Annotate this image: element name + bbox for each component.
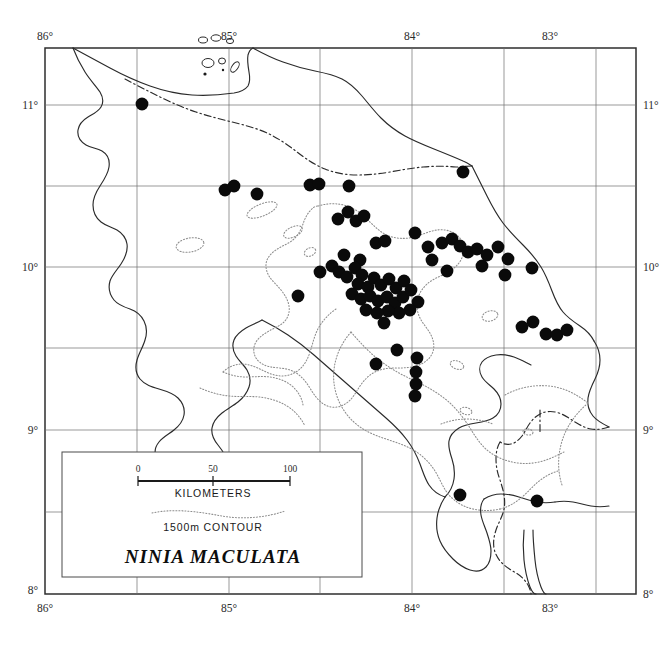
locality-dot	[426, 254, 439, 267]
scale-tick-label-0: 0	[136, 464, 141, 474]
axis-label-lat-left-1: 10°	[22, 261, 39, 273]
locality-dot	[338, 249, 351, 262]
axis-label-lat-left-2: 9°	[28, 424, 39, 436]
locality-dot	[502, 253, 515, 266]
locality-dot	[410, 378, 423, 391]
locality-dot	[382, 305, 395, 318]
locality-dot	[405, 284, 418, 297]
locality-dot	[370, 358, 383, 371]
locality-dot	[251, 188, 264, 201]
locality-dot	[228, 180, 241, 193]
axis-labels-top: 86° 85° 84° 83°	[37, 30, 559, 42]
locality-dot	[404, 304, 417, 317]
species-title: NINIA MACULATA	[124, 546, 301, 567]
axis-label-lat-right-0: 11°	[643, 99, 659, 111]
axis-label-lon-bottom-1: 85°	[221, 602, 238, 614]
locality-dot	[343, 180, 356, 193]
axis-label-lon-bottom-3: 83°	[542, 602, 559, 614]
axis-label-lon-bottom-0: 86°	[37, 602, 54, 614]
axis-label-lon-top-2: 84°	[404, 30, 421, 42]
locality-dot	[441, 265, 454, 278]
legend-panel: 0 50 100 KILOMETERS 1500m CONTOUR NINIA …	[62, 452, 362, 577]
locality-dot	[360, 304, 373, 317]
locality-dot	[499, 269, 512, 282]
axis-label-lat-right-3: 8°	[643, 588, 654, 600]
locality-dot	[409, 390, 422, 403]
locality-dot	[454, 489, 467, 502]
locality-dot	[540, 328, 553, 341]
locality-dot	[378, 317, 391, 330]
locality-dot	[531, 495, 544, 508]
axis-label-lon-top-3: 83°	[542, 30, 559, 42]
locality-dot	[136, 98, 149, 111]
axis-labels-bottom: 86° 85° 84° 83°	[37, 602, 559, 614]
locality-dot-layer	[136, 98, 574, 508]
locality-dot	[391, 344, 404, 357]
locality-dot	[313, 178, 326, 191]
axis-label-lat-right-2: 9°	[643, 424, 654, 436]
axis-labels-left: 11° 10° 9° 8°	[22, 99, 39, 596]
locality-dot	[561, 324, 574, 337]
locality-dot	[411, 352, 424, 365]
axis-label-lat-left-0: 11°	[22, 99, 38, 111]
axis-label-lat-left-3: 8°	[28, 584, 39, 596]
map-canvas: 86° 85° 84° 83° 86° 85° 84° 83° 11° 10° …	[0, 0, 667, 651]
axis-label-lat-right-1: 10°	[643, 261, 660, 273]
locality-dot	[481, 249, 494, 262]
locality-dot	[314, 266, 327, 279]
locality-dot	[457, 166, 470, 179]
locality-dot	[476, 260, 489, 273]
map-figure: 86° 85° 84° 83° 86° 85° 84° 83° 11° 10° …	[0, 0, 667, 651]
locality-dot	[409, 227, 422, 240]
scale-tick-label-2: 100	[283, 464, 298, 474]
locality-dot	[526, 262, 539, 275]
locality-dot	[422, 241, 435, 254]
axis-label-lon-top-1: 85°	[221, 30, 238, 42]
locality-dot	[492, 241, 505, 254]
axis-labels-right: 11° 10° 9° 8°	[643, 99, 660, 600]
axis-label-lon-bottom-2: 84°	[404, 602, 421, 614]
locality-dot	[393, 307, 406, 320]
distribution-map-page: 86° 85° 84° 83° 86° 85° 84° 83° 11° 10° …	[0, 0, 667, 651]
locality-dot	[516, 321, 529, 334]
scale-tick-label-1: 50	[208, 464, 218, 474]
locality-dot	[527, 316, 540, 329]
axis-label-lon-top-0: 86°	[37, 30, 54, 42]
locality-dot	[410, 366, 423, 379]
scale-unit-label: KILOMETERS	[175, 487, 252, 499]
locality-dot	[292, 290, 305, 303]
contour-legend-label: 1500m CONTOUR	[163, 521, 263, 533]
locality-dot	[379, 235, 392, 248]
locality-dot	[358, 210, 371, 223]
